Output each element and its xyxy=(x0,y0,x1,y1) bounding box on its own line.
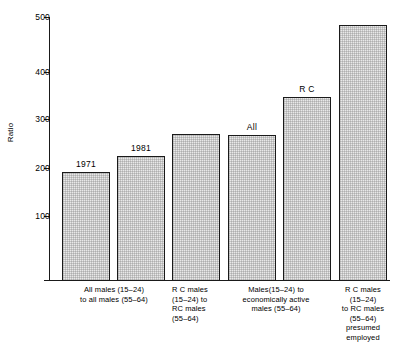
bar-6[interactable] xyxy=(339,25,387,281)
category-label-1: All males (15–24) to all males (55–64) xyxy=(56,285,172,304)
category-label-line: males (55–64) xyxy=(224,304,328,314)
bar-2[interactable] xyxy=(117,156,165,281)
bar-chart: Ratio 500 400 300 200 100 1971 1981 All xyxy=(0,0,393,342)
category-label-line: R C males xyxy=(331,285,393,295)
category-label-line: presumed xyxy=(331,323,393,333)
bar-1[interactable] xyxy=(62,172,110,281)
category-label-line: (15–24) to xyxy=(172,295,232,305)
bar-1-annotation: 1971 xyxy=(62,160,110,169)
category-label-3: R C males (15–24) to RC males (55–64) xyxy=(172,285,232,323)
category-label-line: RC males xyxy=(172,304,232,314)
bar-5[interactable] xyxy=(283,97,331,281)
category-label-line: All males (15–24) xyxy=(56,285,172,295)
category-label-line: Males(15–24) to xyxy=(224,285,328,295)
bar-4[interactable] xyxy=(228,135,276,281)
bar-5-annotation: R C xyxy=(283,85,331,94)
category-label-line: employed xyxy=(331,333,393,342)
category-label-4: Males(15–24) to economically active male… xyxy=(224,285,328,314)
category-label-line: to RC males xyxy=(331,304,393,314)
category-label-line: R C males xyxy=(172,285,232,295)
category-label-line: to all males (55–64) xyxy=(56,295,172,305)
bar-3[interactable] xyxy=(172,134,220,281)
category-label-line: (15–24) xyxy=(331,295,393,305)
category-label-line: (55–64) xyxy=(331,314,393,324)
category-label-6: R C males (15–24) to RC males (55–64) pr… xyxy=(331,285,393,342)
bar-2-annotation: 1981 xyxy=(117,144,165,153)
bar-4-annotation: All xyxy=(228,123,276,132)
category-label-line: economically active xyxy=(224,295,328,305)
category-label-line: (55–64) xyxy=(172,314,232,324)
